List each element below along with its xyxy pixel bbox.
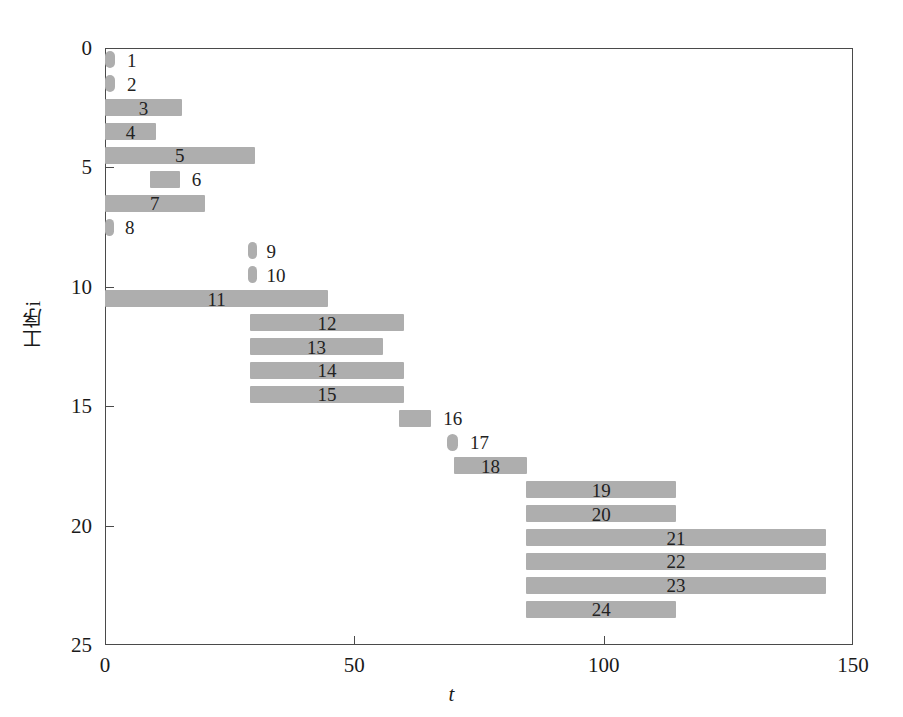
gantt-bar-label: 18 (481, 456, 500, 475)
gantt-bar (248, 242, 257, 259)
x-axis-tick-label: 150 (813, 653, 893, 678)
gantt-bar-label: 16 (443, 409, 462, 428)
gantt-bar-label: 10 (267, 265, 286, 284)
gantt-bar (447, 434, 458, 451)
gantt-bar-label: 13 (307, 337, 326, 356)
gantt-bar-label: 3 (139, 98, 149, 117)
gantt-bar (150, 171, 180, 188)
gantt-bar (399, 410, 431, 427)
x-axis-tick-label: 0 (65, 653, 145, 678)
gantt-bar-label: 21 (666, 528, 685, 547)
gantt-bar-label: 15 (317, 385, 336, 404)
gantt-bar-label: 7 (150, 194, 160, 213)
x-axis-tick (354, 636, 355, 645)
gantt-bar-label: 11 (208, 289, 226, 308)
y-axis-tick-label: 20 (32, 513, 92, 538)
gantt-bar-label: 24 (592, 600, 611, 619)
gantt-bar (105, 219, 114, 236)
gantt-bar-label: 6 (192, 170, 202, 189)
y-axis-tick-label: 5 (32, 155, 92, 180)
y-axis-tick-label: 10 (32, 274, 92, 299)
y-axis-tick-label: 0 (32, 36, 92, 61)
plot-area: 123456789101112131415161718192021222324 (105, 48, 853, 645)
gantt-bar-label: 22 (666, 552, 685, 571)
x-axis-tick-label: 100 (564, 653, 644, 678)
gantt-bar-label: 9 (267, 241, 277, 260)
gantt-bar-label: 8 (125, 218, 135, 237)
gantt-bar-label: 4 (126, 122, 136, 141)
gantt-bar-label: 12 (317, 313, 336, 332)
y-axis-tick (105, 167, 114, 168)
gantt-bar-label: 14 (317, 361, 336, 380)
y-axis-tick (105, 287, 114, 288)
gantt-bar (105, 51, 115, 68)
gantt-bar-label: 23 (666, 576, 685, 595)
x-axis-tick-label: 50 (314, 653, 394, 678)
gantt-bar-label: 20 (592, 504, 611, 523)
gantt-bar-label: 5 (175, 146, 185, 165)
gantt-bar-label: 1 (127, 50, 137, 69)
y-axis-tick (105, 406, 114, 407)
gantt-bar (105, 75, 115, 92)
y-axis-title: 工序i (18, 300, 47, 349)
gantt-chart: 123456789101112131415161718192021222324 … (0, 0, 903, 717)
y-axis-tick (105, 526, 114, 527)
y-axis-tick-label: 15 (32, 394, 92, 419)
gantt-bar-label: 19 (592, 480, 611, 499)
gantt-bar-label: 2 (127, 74, 137, 93)
x-axis-tick (604, 636, 605, 645)
gantt-bar (248, 266, 257, 283)
x-axis-title: t (0, 682, 903, 707)
gantt-bar-label: 17 (470, 433, 489, 452)
